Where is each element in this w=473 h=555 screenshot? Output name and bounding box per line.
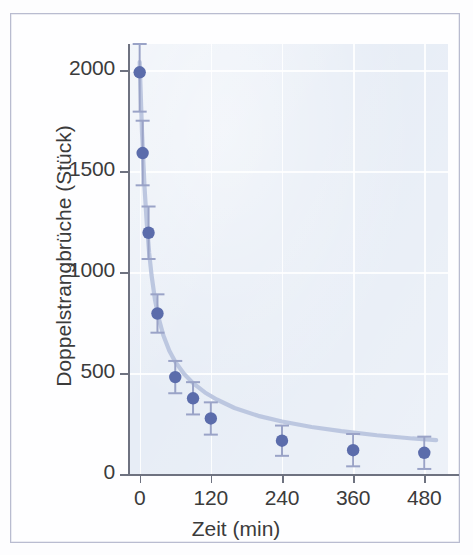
x-axis-tick-label: 240 [247,486,317,510]
data-point [133,66,145,78]
x-axis-tick [140,475,142,483]
data-point [142,227,154,239]
x-axis-tick-label: 120 [176,486,246,510]
x-axis-tick-label: 0 [105,486,175,510]
data-point [418,447,430,459]
x-axis-tick [282,475,284,483]
data-point [205,412,217,424]
data-point [169,371,181,383]
x-axis-tick [211,475,213,483]
data-point [151,307,163,319]
figure-canvas: 0500100015002000 0120240360480 Doppelstr… [0,0,473,555]
x-axis-tick [353,475,355,483]
data-series-layer [129,44,448,474]
y-axis-tick-label: 500 [81,359,115,383]
data-point [347,444,359,456]
y-axis-tick [120,373,128,375]
fit-curve [140,62,436,440]
y-axis-tick [120,272,128,274]
data-point [276,434,288,446]
y-axis-tick [120,474,128,476]
x-axis-label: Zeit (min) [11,517,461,541]
x-axis-tick-label: 480 [389,486,459,510]
x-axis-tick-label: 360 [318,486,388,510]
data-point [136,147,148,159]
y-axis-tick-label: 0 [104,460,115,484]
y-axis-label: Doppelstrangbrüche (Stück) [52,46,76,466]
x-axis-line [121,474,459,476]
data-point [187,392,199,404]
y-axis-tick [120,171,128,173]
error-bars [133,44,432,469]
figure-frame: 0500100015002000 0120240360480 Doppelstr… [10,13,460,543]
x-axis-tick [424,475,426,483]
data-point-markers [133,66,430,459]
y-axis-tick [120,70,128,72]
